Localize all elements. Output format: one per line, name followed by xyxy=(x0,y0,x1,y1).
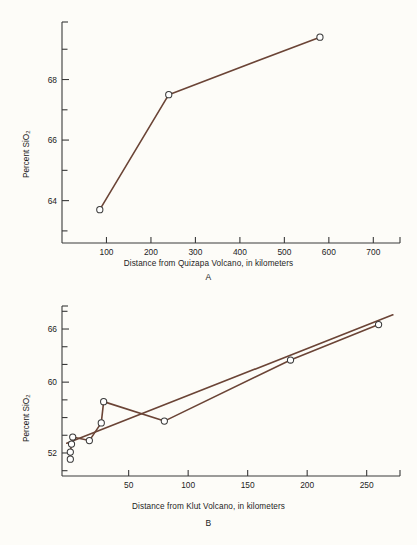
chart-panel-b: Percent SiO2 52606650100150200250 Distan… xyxy=(0,290,417,545)
panel-label-a: A xyxy=(0,272,417,282)
x-tick-label: 200 xyxy=(144,247,158,257)
data-point-marker xyxy=(98,420,104,426)
x-tick-label: 150 xyxy=(241,480,255,490)
chart-panel-a: Percent SiO2 646668100200300400500600700… xyxy=(0,0,417,285)
x-tick-label: 200 xyxy=(300,480,314,490)
y-axis-title-a-sub: 2 xyxy=(25,131,31,134)
data-point-marker xyxy=(67,456,73,462)
trend-line xyxy=(67,315,393,443)
x-tick-label: 400 xyxy=(233,247,247,257)
x-tick-label: 50 xyxy=(124,480,134,490)
x-tick-label: 100 xyxy=(99,247,113,257)
y-axis-title-b: Percent SiO2 xyxy=(22,395,31,442)
x-tick-label: 300 xyxy=(188,247,202,257)
y-tick-label: 66 xyxy=(48,135,58,145)
data-point-marker xyxy=(67,449,73,455)
data-point-marker xyxy=(101,399,107,405)
x-axis-title-b: Distance from Klut Volcano, in kilometer… xyxy=(0,502,417,511)
data-point-marker xyxy=(86,437,92,443)
y-tick-label: 66 xyxy=(48,324,58,334)
y-tick-label: 60 xyxy=(48,377,58,387)
data-point-marker xyxy=(166,92,172,98)
data-line xyxy=(70,325,378,460)
y-tick-label: 68 xyxy=(48,75,58,85)
panel-label-b: B xyxy=(0,518,417,528)
y-tick-label: 52 xyxy=(48,448,58,458)
x-tick-label: 100 xyxy=(181,480,195,490)
figure: Percent SiO2 646668100200300400500600700… xyxy=(0,0,417,545)
data-point-marker xyxy=(70,434,76,440)
y-axis-title-a: Percent SiO2 xyxy=(22,131,31,178)
data-point-marker xyxy=(161,418,167,424)
plot-area-a: 646668100200300400500600700 xyxy=(0,0,417,262)
x-axis-title-a: Distance from Quizapa Volcano, in kilome… xyxy=(0,259,417,268)
data-point-marker xyxy=(287,357,293,363)
data-point-marker xyxy=(317,34,323,40)
data-point-marker xyxy=(68,441,74,447)
data-point-marker xyxy=(375,321,381,327)
y-axis-title-b-sub: 2 xyxy=(25,395,31,398)
plot-area-b: 52606650100150200250 xyxy=(0,290,417,495)
x-tick-label: 250 xyxy=(360,480,374,490)
x-tick-label: 600 xyxy=(322,247,336,257)
y-axis-title-a-text: Percent SiO xyxy=(22,134,31,178)
data-line xyxy=(100,37,320,210)
y-axis-title-b-text: Percent SiO xyxy=(22,398,31,442)
x-tick-label: 500 xyxy=(277,247,291,257)
x-tick-label: 700 xyxy=(366,247,380,257)
data-point-marker xyxy=(97,207,103,213)
y-tick-label: 64 xyxy=(48,196,58,206)
